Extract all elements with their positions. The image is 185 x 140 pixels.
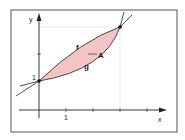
x-tick-label: 1: [64, 114, 68, 121]
curve-g-label: g: [84, 62, 89, 71]
y-tick-label: 1: [32, 74, 36, 81]
diagram-canvas: y x 1 1 f g A: [0, 0, 185, 140]
diagram-frame: [11, 10, 177, 132]
intersection-point-right: [118, 25, 122, 29]
area-a-label: A: [98, 51, 104, 60]
curve-f-label: f: [76, 43, 79, 52]
y-axis-arrow-icon: [37, 13, 42, 21]
x-axis-label: x: [158, 116, 162, 123]
area-a-region: [39, 27, 120, 81]
x-axis-arrow-icon: [159, 108, 167, 113]
y-axis-label: y: [29, 16, 33, 24]
intersection-point-left: [37, 79, 41, 83]
